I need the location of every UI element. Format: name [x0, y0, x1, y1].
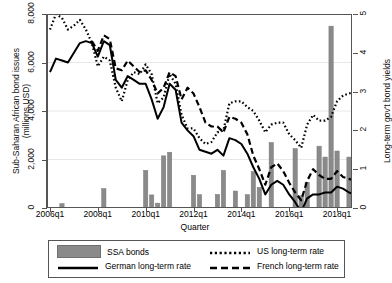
legend-label-german-rate: German long-term rate: [105, 261, 191, 271]
y-tick-mark-right: [353, 130, 358, 131]
x-tick-mark: [146, 208, 147, 212]
y-tick-label-right: 3: [358, 85, 368, 97]
bar: [161, 156, 165, 208]
y-tick-label-left: 8,000: [26, 0, 36, 26]
chart-legend: SSA bonds US long-term rate German long-…: [48, 240, 345, 278]
dashed-line-icon: [209, 260, 251, 272]
bar: [323, 157, 327, 208]
bar: [233, 191, 237, 208]
y-axis-right-title-text: Long-term gov't bond yields: [382, 14, 392, 208]
bar: [167, 152, 171, 208]
y-axis-left-title-line1: Sub-Saharan African bond issues: [11, 14, 21, 208]
y-tick-label-right: 2: [358, 123, 368, 135]
x-tick-mark: [241, 208, 242, 212]
solid-line-icon: [57, 260, 99, 272]
y-tick-mark-right: [353, 169, 358, 170]
legend-item-german-rate: German long-term rate: [57, 260, 191, 272]
legend-item-us-rate: US long-term rate: [209, 245, 324, 257]
y-tick-label-left: 4,000: [26, 97, 36, 123]
bar: [269, 143, 273, 208]
bar: [197, 195, 201, 208]
x-tick-mark: [98, 208, 99, 212]
chart-svg: [47, 14, 352, 208]
y-tick-label-right: 4: [358, 46, 368, 58]
x-axis-title: Quarter: [0, 222, 390, 232]
bar: [257, 187, 261, 208]
y-tick-label-right: 5: [358, 7, 368, 19]
y-tick-mark-right: [353, 53, 358, 54]
y-tick-label-left: 0: [26, 194, 36, 220]
x-tick-mark: [50, 208, 51, 212]
y-tick-label-left: 6,000: [26, 49, 36, 75]
x-tick-mark: [289, 208, 290, 212]
legend-item-french-rate: French long-term rate: [209, 260, 339, 272]
y-axis-left-title: Sub-Saharan African bond issues (million…: [0, 0, 23, 215]
bar: [347, 157, 351, 208]
dotted-line-icon: [209, 245, 251, 257]
bar: [215, 194, 219, 208]
plot-area: [47, 14, 352, 208]
y-tick-mark-right: [353, 208, 358, 209]
bar-swatch-icon: [57, 245, 101, 258]
x-tick-mark: [194, 208, 195, 212]
line-us-long-term-rate: [50, 14, 352, 148]
y-tick-mark-right: [353, 92, 358, 93]
bar: [102, 189, 106, 208]
y-tick-label-left: 2,000: [26, 146, 36, 172]
legend-label-us-rate: US long-term rate: [257, 246, 324, 256]
legend-label-ssa-bonds: SSA bonds: [107, 247, 149, 257]
legend-label-french-rate: French long-term rate: [257, 261, 339, 271]
bar: [245, 195, 249, 208]
bar: [251, 172, 255, 208]
y-tick-label-right: 1: [358, 162, 368, 174]
legend-item-ssa-bonds: SSA bonds: [57, 245, 149, 258]
bar-series-ssa-bonds: [60, 26, 351, 208]
bar: [150, 195, 154, 208]
bar: [191, 175, 195, 208]
bar: [221, 170, 225, 208]
x-tick-mark: [337, 208, 338, 212]
y-tick-label-right: 0: [358, 201, 368, 213]
y-tick-mark-right: [353, 14, 358, 15]
bar: [335, 151, 339, 208]
bar: [144, 170, 148, 208]
